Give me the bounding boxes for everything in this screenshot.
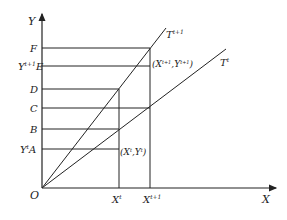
y-axis-label: Y — [28, 15, 37, 28]
label-Xt1: Xt+1 — [142, 193, 161, 205]
label-C: C — [30, 103, 38, 114]
point-label-t: (Xt,Yt) — [120, 147, 147, 157]
label-Yt1-E: Yt+1E — [18, 60, 44, 72]
label-Yt-A: YtA — [20, 143, 36, 155]
label-B: B — [29, 124, 37, 135]
label-Xt: Xt — [111, 193, 122, 205]
origin-label: O — [30, 189, 39, 202]
label-D: D — [29, 84, 38, 95]
production-frontier-diagram: Y X O F Yt+1E D C B YtA Xt Xt+1 Tt+1 Tt … — [0, 0, 287, 220]
point-label-t1: (Xt+1,Yt+1) — [152, 59, 194, 69]
label-T-t1: Tt+1 — [166, 28, 184, 40]
x-axis-label: X — [261, 193, 271, 206]
label-F: F — [29, 43, 38, 54]
label-T-t: Tt — [220, 56, 230, 68]
